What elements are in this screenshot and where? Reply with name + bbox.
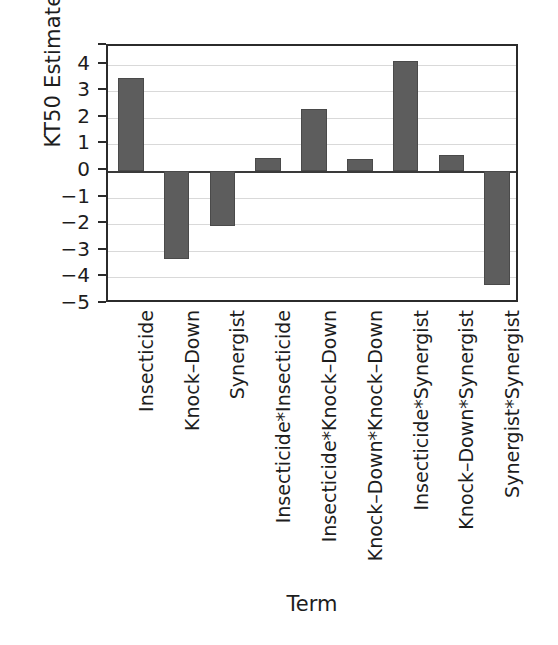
y-tick-mark (98, 43, 106, 45)
y-tick-mark (98, 301, 106, 303)
bar (164, 171, 190, 259)
y-tick-mark (98, 248, 106, 250)
x-tick-label: Insecticide (136, 310, 156, 570)
bar (255, 158, 281, 171)
y-tick-mark (98, 195, 106, 197)
bar (347, 159, 373, 171)
plot-area (106, 44, 518, 302)
gridline (108, 65, 516, 66)
x-tick-label: Insecticide*Knock–Down (319, 310, 339, 570)
y-tick-mark (98, 88, 106, 90)
x-tick-label: Knock–Down (182, 310, 202, 570)
x-tick-label: Synergist (227, 310, 247, 570)
bar (301, 109, 327, 172)
bar (439, 155, 465, 171)
x-tick-label: Knock–Down*Synergist (456, 310, 476, 570)
x-tick-label: Knock–Down*Knock–Down (365, 310, 385, 570)
x-tick-label: Insecticide*Synergist (411, 310, 431, 570)
y-tick-mark (98, 141, 106, 143)
bar (118, 78, 144, 171)
y-tick-mark (98, 168, 106, 170)
bar-chart-figure: KT50 Estimates 43210−1−2−3−4−5 Insectici… (0, 0, 558, 645)
x-axis-tick-labels: InsecticideKnock–DownSynergistInsecticid… (106, 302, 518, 592)
x-tick-label: Insecticide*Insecticide (273, 310, 293, 570)
gridline (108, 91, 516, 92)
bar (484, 171, 510, 285)
y-tick-mark (98, 62, 106, 64)
x-axis-title: Term (106, 592, 518, 616)
y-tick-mark (98, 221, 106, 223)
y-axis-tick-labels: 43210−1−2−3−4−5 (0, 0, 106, 645)
x-tick-label: Synergist*Synergist (502, 310, 522, 570)
bar (210, 171, 236, 226)
bar (393, 61, 419, 171)
y-tick-mark (98, 274, 106, 276)
y-tick-mark (98, 115, 106, 117)
gridline (108, 277, 516, 278)
